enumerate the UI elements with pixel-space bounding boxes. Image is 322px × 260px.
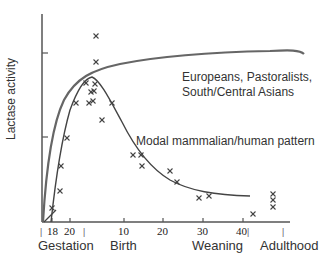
y-axis-label: Lactase activity [4, 58, 18, 140]
tick-adult: | [282, 225, 284, 237]
tick-birth: | [83, 225, 85, 237]
tick-conception: | [40, 225, 42, 237]
label-weaning: Weaning [192, 238, 243, 253]
lactase-chart [0, 0, 322, 260]
label-birth: Birth [110, 238, 137, 253]
legend-persistence-1: Europeans, Pastoralists, [182, 70, 312, 84]
legend-persistence-2: South/Central Asians [182, 85, 294, 99]
tick-40: 40| [236, 225, 249, 237]
tick-20: 20 [64, 225, 75, 237]
data-points [50, 34, 276, 217]
legend-modal: Modal mammalian/human pattern [136, 134, 315, 148]
tick-10: 10 [118, 225, 129, 237]
label-gestation: Gestation [38, 238, 94, 253]
label-adulthood: Adulthood [260, 238, 319, 253]
tick-18: 18 [47, 225, 58, 237]
tick-30: 30 [197, 225, 208, 237]
tick-20b: 20 [157, 225, 168, 237]
